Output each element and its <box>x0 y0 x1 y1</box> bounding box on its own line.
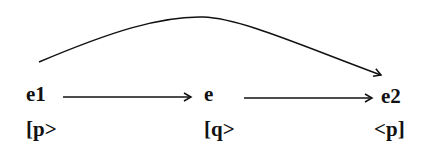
node-e: e <box>204 84 213 105</box>
node-e2: e2 <box>381 86 401 107</box>
annotation-e2: <p] <box>374 119 405 140</box>
annotation-e: [q> <box>204 119 235 140</box>
edge-e1-to-e2-curved <box>39 17 381 75</box>
node-e1: e1 <box>26 84 46 105</box>
annotation-e1: [p> <box>26 119 57 140</box>
event-diagram: e1 e e2 [p> [q> <p] <box>0 0 431 157</box>
